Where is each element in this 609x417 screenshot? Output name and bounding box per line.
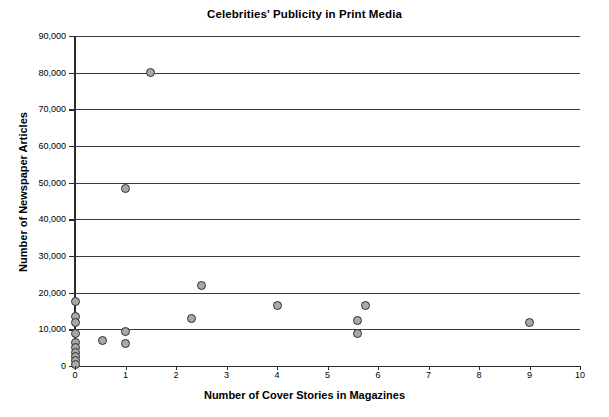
data-point bbox=[146, 68, 155, 77]
y-tick-label: 10,000 bbox=[6, 324, 66, 334]
y-tick-mark bbox=[69, 73, 75, 74]
y-tick-label: 20,000 bbox=[6, 288, 66, 298]
data-point bbox=[71, 318, 80, 327]
y-tick-mark bbox=[69, 109, 75, 110]
data-point bbox=[121, 184, 130, 193]
y-tick-label: 50,000 bbox=[6, 178, 66, 188]
x-tick-label: 5 bbox=[313, 370, 343, 380]
data-point bbox=[71, 297, 80, 306]
y-tick-label: 70,000 bbox=[6, 104, 66, 114]
y-tick-mark bbox=[69, 183, 75, 184]
x-tick-label: 4 bbox=[262, 370, 292, 380]
gridline bbox=[75, 329, 580, 330]
y-tick-mark bbox=[69, 293, 75, 294]
data-point bbox=[525, 318, 534, 327]
y-tick-label: 30,000 bbox=[6, 251, 66, 261]
data-point bbox=[121, 327, 130, 336]
y-tick-mark bbox=[69, 256, 75, 257]
x-tick-label: 7 bbox=[414, 370, 444, 380]
x-tick-label: 2 bbox=[161, 370, 191, 380]
data-point bbox=[187, 314, 196, 323]
x-tick-label: 8 bbox=[464, 370, 494, 380]
data-point bbox=[197, 281, 206, 290]
gridline bbox=[75, 219, 580, 220]
x-tick-label: 1 bbox=[111, 370, 141, 380]
data-point bbox=[361, 301, 370, 310]
gridline bbox=[75, 146, 580, 147]
data-point bbox=[71, 329, 80, 338]
y-tick-mark bbox=[69, 219, 75, 220]
y-tick-label: 80,000 bbox=[6, 68, 66, 78]
gridline bbox=[75, 183, 580, 184]
y-tick-label: 90,000 bbox=[6, 31, 66, 41]
scatter-chart: Celebrities' Publicity in Print Media Nu… bbox=[0, 0, 609, 417]
x-tick-label: 0 bbox=[60, 370, 90, 380]
gridline bbox=[75, 256, 580, 257]
y-tick-mark bbox=[69, 36, 75, 37]
data-point bbox=[98, 336, 107, 345]
chart-title: Celebrities' Publicity in Print Media bbox=[0, 8, 609, 20]
data-point bbox=[353, 329, 362, 338]
y-tick-label: 0 bbox=[6, 361, 66, 371]
y-tick-mark bbox=[69, 146, 75, 147]
data-point bbox=[353, 316, 362, 325]
data-point bbox=[121, 339, 130, 348]
y-tick-label: 40,000 bbox=[6, 214, 66, 224]
y-tick-label: 60,000 bbox=[6, 141, 66, 151]
x-tick-label: 10 bbox=[565, 370, 595, 380]
x-tick-label: 3 bbox=[212, 370, 242, 380]
x-tick-label: 6 bbox=[363, 370, 393, 380]
gridline bbox=[75, 109, 580, 110]
data-point bbox=[273, 301, 282, 310]
x-tick-label: 9 bbox=[515, 370, 545, 380]
gridline bbox=[75, 36, 580, 37]
plot-area bbox=[75, 36, 580, 366]
x-axis-title: Number of Cover Stories in Magazines bbox=[0, 389, 609, 401]
gridline bbox=[75, 293, 580, 294]
